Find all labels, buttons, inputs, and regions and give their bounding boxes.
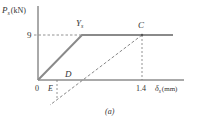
origin-label: 0: [35, 84, 39, 93]
x-tick-label: 1.4: [136, 84, 146, 93]
load-curve: [38, 35, 173, 80]
y-tick-label: 9: [27, 30, 32, 40]
point-c-label: C: [138, 20, 145, 30]
y-axis-label: Ps(kN): [1, 5, 26, 16]
point-e-label: E: [47, 84, 53, 93]
load-displacement-diagram: Ps(kN) 9 Ys C D 0 E 1.4 δs(mm) (a): [0, 0, 197, 125]
yield-label: Ys: [76, 18, 84, 29]
point-c-marker: [141, 34, 143, 36]
figure-caption: (a): [105, 107, 115, 116]
x-axis-label: δs(mm): [155, 84, 178, 94]
unloading-line: [50, 35, 142, 105]
point-d-label: D: [64, 69, 72, 79]
